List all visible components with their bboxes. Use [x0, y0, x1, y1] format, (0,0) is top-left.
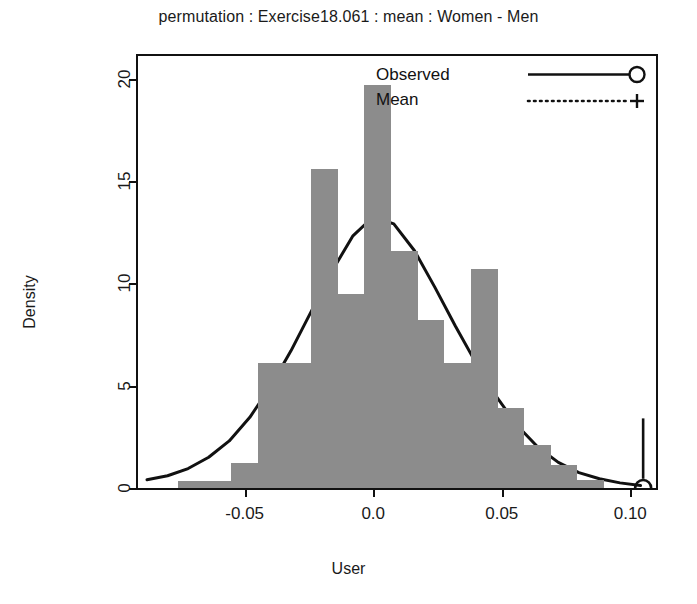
chart-root: permutation : Exercise18.061 : mean : Wo… — [0, 0, 697, 604]
histogram-bar — [524, 445, 551, 488]
x-axis-tick-label: 0.0 — [361, 504, 385, 524]
y-axis-tick-label: 20 — [115, 79, 135, 98]
y-axis-tick-label: 15 — [115, 181, 135, 200]
x-axis-tick — [245, 488, 247, 497]
plot-area — [138, 56, 656, 488]
histogram-bar — [338, 294, 365, 489]
legend-key-observed — [526, 62, 646, 87]
histogram-bar — [444, 363, 471, 488]
y-axis-tick-label: 5 — [115, 386, 135, 395]
x-axis-tick-label: 0.05 — [485, 504, 518, 524]
x-axis-title: User — [0, 560, 697, 578]
x-axis-tick — [502, 488, 504, 497]
histogram-bar — [551, 465, 578, 488]
y-axis-title: Density — [18, 0, 42, 604]
legend-label-observed: Observed — [376, 62, 526, 87]
x-axis-tick-label: 0.10 — [614, 504, 647, 524]
legend: Observed Mean — [366, 60, 650, 115]
histogram-bar — [497, 408, 524, 488]
y-axis-tick-label: 10 — [115, 283, 135, 302]
histogram-bar — [178, 481, 205, 488]
plot-panel: 05101520 -0.050.00.050.10 Observed Mean — [136, 54, 658, 490]
histogram-bar — [285, 363, 312, 488]
legend-label-mean: Mean — [376, 87, 526, 112]
histogram-bar — [364, 85, 391, 488]
legend-item-observed: Observed — [376, 62, 646, 87]
y-axis-tick-label: 0 — [115, 488, 135, 497]
histogram-bar — [205, 481, 232, 488]
histogram-bar — [311, 169, 338, 488]
circle-marker — [635, 480, 651, 488]
histogram-bar — [418, 320, 445, 488]
x-axis-tick — [373, 488, 375, 497]
x-axis-tick-label: -0.05 — [225, 504, 264, 524]
legend-item-mean: Mean — [376, 87, 646, 112]
histogram-bar — [258, 363, 285, 488]
histogram-bar — [231, 463, 258, 488]
histogram-bar — [391, 251, 418, 488]
histogram-bar — [577, 480, 604, 488]
legend-key-mean — [526, 87, 646, 112]
histogram-bar — [471, 269, 498, 488]
x-axis-tick — [630, 488, 632, 497]
page-title: permutation : Exercise18.061 : mean : Wo… — [0, 8, 697, 26]
y-axis-title-label: Density — [21, 275, 39, 328]
